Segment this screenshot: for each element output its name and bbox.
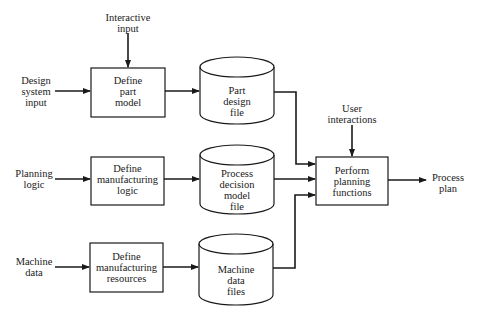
process-decision-model-file-label: Process decision model file xyxy=(200,168,274,212)
machine-data-files-to-planning-arrow xyxy=(273,195,315,268)
interactive-input-label: Interactive input xyxy=(96,12,160,34)
perform-planning-functions-label: Perform planning functions xyxy=(316,165,388,198)
part-design-file-to-planning-arrow xyxy=(274,92,315,164)
part-design-file-label: Part design file xyxy=(200,85,274,118)
process-plan-label: Process plan xyxy=(426,172,470,194)
define-manufacturing-resources-label: Define manufacturing resources xyxy=(90,251,163,284)
define-manufacturing-logic-label: Define manufacturing logic xyxy=(91,163,164,196)
user-interactions-label: User interactions xyxy=(318,103,386,125)
design-system-input-label: Design system input xyxy=(10,75,62,108)
machine-data-label: Machine data xyxy=(8,256,60,278)
define-part-model-label: Define part model xyxy=(91,75,165,108)
machine-data-files-label: Machine data files xyxy=(199,264,273,297)
planning-logic-label: Planning logic xyxy=(8,168,60,190)
